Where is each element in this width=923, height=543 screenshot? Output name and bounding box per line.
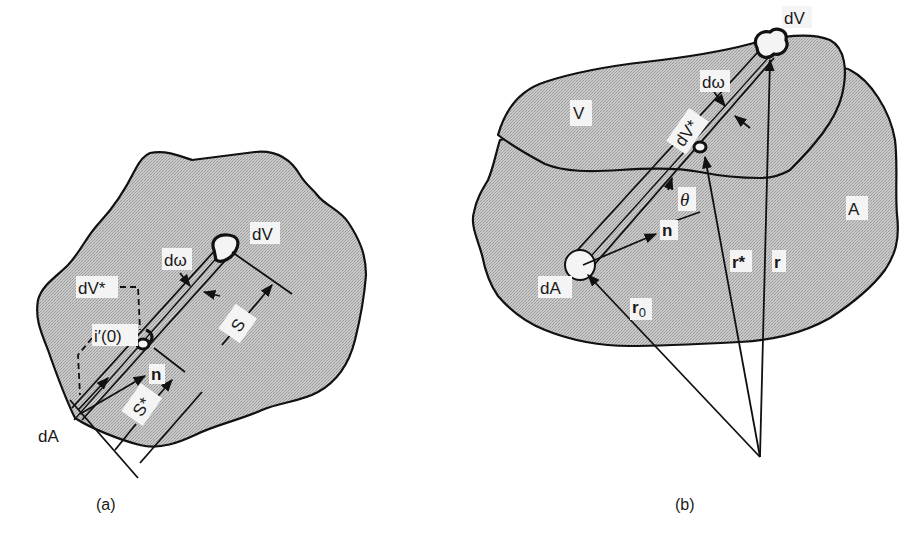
- panel-a: dV dω dV* i′(0) n S S* dA (a): [37, 152, 366, 513]
- caption-a: (a): [96, 496, 116, 513]
- label-r-star: r*: [732, 253, 746, 272]
- caption-b: (b): [675, 496, 695, 513]
- label-r: r: [774, 253, 781, 272]
- region-outline-a: [37, 152, 366, 447]
- label-i-prime-zero: i′(0): [94, 327, 122, 346]
- label-d-omega-a: dω: [164, 251, 187, 270]
- panel-b: V dω dV dV* θ n A dA r0 r* r (b): [473, 6, 898, 513]
- dA-element-b: [565, 250, 595, 280]
- label-A: A: [848, 200, 860, 219]
- dV-star-element-a: [137, 339, 149, 349]
- label-n-a: n: [151, 365, 161, 384]
- label-dV-a: dV: [252, 225, 273, 244]
- label-V: V: [573, 104, 585, 123]
- label-dV-star-a: dV*: [78, 279, 106, 298]
- label-dA-b: dA: [540, 279, 561, 298]
- label-d-omega-b: dω: [702, 73, 725, 92]
- region-V-outline: [498, 36, 845, 178]
- label-theta: θ: [680, 189, 689, 210]
- radiative-transfer-diagram: dV dω dV* i′(0) n S S* dA (a): [0, 0, 923, 543]
- dV-element-b: [755, 29, 787, 57]
- label-dA-a: dA: [38, 427, 59, 446]
- dV-star-element-b: [694, 142, 706, 152]
- label-dV-b: dV: [784, 9, 805, 28]
- label-n-b: n: [662, 221, 672, 240]
